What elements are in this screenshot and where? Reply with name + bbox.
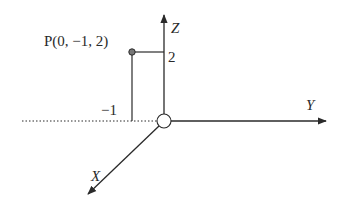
z-axis-label: Z — [171, 20, 180, 36]
coordinate-diagram: P(0, −1, 2) Z 2 −1 Y X — [0, 0, 341, 203]
z-tick-label: 2 — [168, 49, 176, 65]
x-axis-label: X — [90, 168, 101, 184]
y-tick-label: −1 — [101, 102, 117, 118]
point-p — [129, 49, 135, 55]
point-p-label: P(0, −1, 2) — [44, 33, 108, 50]
origin-circle — [157, 114, 171, 128]
y-axis-label: Y — [306, 97, 316, 113]
